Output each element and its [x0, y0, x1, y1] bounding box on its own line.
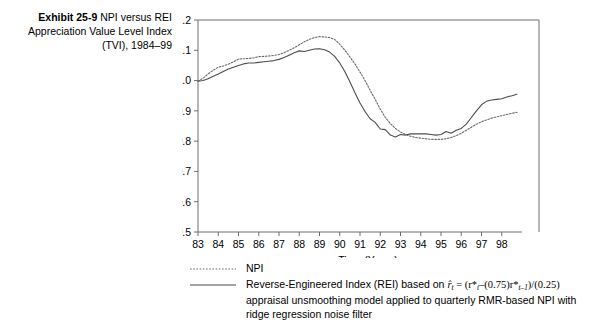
legend-rei-line3: ridge regression noise filter: [246, 308, 372, 320]
y-axis-tick-label: 0.6: [182, 196, 191, 208]
y-axis-tick-label: 0.5: [182, 226, 191, 238]
legend-item-rei: Reverse-Engineered Index (REI) based on …: [190, 278, 590, 321]
legend-swatch-solid-icon: [190, 278, 236, 290]
x-axis-tick-label: 84: [212, 238, 224, 250]
x-axis-tick-label: 90: [334, 238, 346, 250]
x-axis-tick-label: 98: [496, 238, 508, 250]
y-axis-tick-label: 1.2: [182, 14, 191, 26]
exhibit-number: Exhibit 25-9: [38, 11, 97, 23]
x-axis-tick-label: 87: [273, 238, 285, 250]
legend-rei-line1-prefix: Reverse-Engineered Index (REI) based on: [246, 278, 447, 290]
formula-tail: )/(0.25): [528, 279, 560, 290]
exhibit-figure: Exhibit 25-9 NPI versus REI Appreciation…: [0, 0, 592, 336]
legend-rei-line2: appraisal unsmoothing model applied to q…: [246, 294, 576, 306]
x-axis-tick-label: 91: [354, 238, 366, 250]
chart-series-npi: [198, 37, 517, 140]
x-axis-tick-label: 96: [455, 238, 467, 250]
x-axis-tick-label: 95: [435, 238, 447, 250]
chart-series-rei: [198, 49, 517, 137]
x-axis-tick-label: 89: [314, 238, 326, 250]
x-axis-tick-label: 83: [192, 238, 204, 250]
x-axis-tick-label: 88: [293, 238, 305, 250]
y-axis-tick-label: 0.9: [182, 105, 191, 117]
formula-eq-open: = (r*: [454, 279, 477, 290]
legend-rei-formula: r̂t = (r*t–(0.75)r*t–1)/(0.25): [447, 279, 559, 290]
legend-label-npi: NPI: [246, 262, 264, 275]
chart-svg: 0.50.60.70.80.91.01.11.28384858687888990…: [182, 8, 582, 258]
chart-axis-labels: 0.50.60.70.80.91.01.11.28384858687888990…: [182, 14, 508, 258]
chart-series: [198, 37, 517, 140]
x-axis-tick-label: 94: [415, 238, 427, 250]
y-axis-tick-label: 1.1: [182, 44, 191, 56]
x-axis-tick-label: 92: [374, 238, 386, 250]
legend-label-rei: Reverse-Engineered Index (REI) based on …: [246, 278, 576, 321]
chart-legend: NPI Reverse-Engineered Index (REI) based…: [190, 262, 590, 324]
y-axis-tick-label: 0.8: [182, 135, 191, 147]
chart-plot-area: 0.50.60.70.80.91.01.11.28384858687888990…: [182, 8, 582, 258]
x-axis-tick-label: 86: [253, 238, 265, 250]
x-axis-tick-label: 85: [233, 238, 245, 250]
y-axis-tick-label: 0.7: [182, 165, 191, 177]
chart-axes: [194, 20, 539, 236]
formula-sub-t-1: t–1: [518, 283, 527, 292]
legend-item-npi: NPI: [190, 262, 590, 275]
x-axis-title: Time (Years): [338, 254, 397, 258]
exhibit-caption: Exhibit 25-9 NPI versus REI Appreciation…: [0, 10, 172, 53]
y-axis-tick-label: 1.0: [182, 74, 191, 86]
x-axis-tick-label: 93: [395, 238, 407, 250]
legend-swatch-dotted-icon: [190, 262, 236, 274]
x-axis-tick-label: 97: [476, 238, 488, 250]
formula-mid: –(0.75)r*: [479, 279, 518, 290]
